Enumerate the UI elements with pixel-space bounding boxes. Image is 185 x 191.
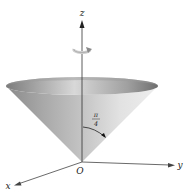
x-axis-label: x [5,181,10,191]
angle-denominator: 4 [93,120,98,128]
cone-diagram: z π 4 y x O [0,0,185,191]
angle-numerator: π [93,111,99,119]
origin-label: O [76,166,84,176]
y-axis: y [82,160,183,170]
z-axis-label: z [79,8,85,18]
rotation-arrow-icon [74,47,92,53]
x-axis: x [5,162,82,191]
y-axis-label: y [176,160,183,170]
